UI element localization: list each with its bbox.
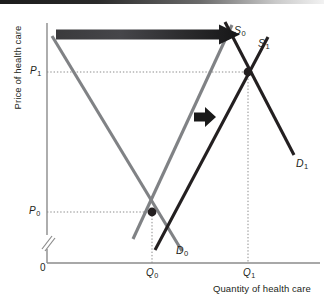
demand-shifted-letter: D <box>296 157 304 169</box>
qty-low-letter: Q <box>146 267 154 278</box>
demand-initial-letter: D <box>176 244 184 256</box>
figure-canvas: Price of health care Quantity of health … <box>0 0 324 306</box>
price-low-tick-label: P0 <box>29 206 40 216</box>
qty-high-subscript: 1 <box>251 271 255 280</box>
supply-shift-arrow <box>194 107 216 127</box>
price-high-subscript: 1 <box>37 69 41 78</box>
demand-shift-arrow <box>56 25 240 45</box>
equilibrium-point-initial <box>148 208 157 217</box>
price-low-subscript: 0 <box>36 209 40 218</box>
axes-group <box>42 23 320 263</box>
curve-label-supply-initial: S0 <box>234 25 245 36</box>
curve-demand-initial <box>52 36 182 251</box>
curve-label-demand-shifted: D1 <box>296 158 308 169</box>
origin-label: 0 <box>40 263 46 273</box>
qty-high-tick-label: Q1 <box>243 268 255 278</box>
demand-shifted-subscript: 1 <box>304 162 308 171</box>
guideline-group <box>47 72 248 263</box>
supply-demand-plot <box>0 0 324 306</box>
y-axis-label: Price of health care <box>12 18 23 118</box>
curve-label-supply-shifted: S1 <box>258 38 269 49</box>
x-axis-label: Quantity of health care <box>213 283 311 294</box>
price-low-letter: P <box>29 205 36 216</box>
supply-initial-subscript: 0 <box>242 29 246 38</box>
supply-initial-letter: S <box>234 24 241 36</box>
curve-label-demand-initial: D0 <box>176 245 188 256</box>
qty-low-tick-label: Q0 <box>146 268 158 278</box>
equilibrium-point-new <box>244 68 253 77</box>
price-high-tick-label: P1 <box>30 66 41 76</box>
price-high-letter: P <box>30 65 37 76</box>
axis-break-icon <box>42 236 55 251</box>
supply-shifted-subscript: 1 <box>266 42 270 51</box>
qty-low-subscript: 0 <box>154 271 158 280</box>
qty-high-letter: Q <box>243 267 251 278</box>
supply-shifted-letter: S <box>258 37 265 49</box>
demand-initial-subscript: 0 <box>184 249 188 258</box>
